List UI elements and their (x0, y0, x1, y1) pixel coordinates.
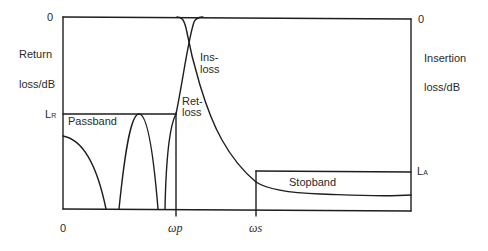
right-zero-tick: 0 (418, 13, 424, 25)
left-axis-label-line2: loss/dB (19, 78, 55, 90)
right-axis-label-line1: Insertion (424, 52, 466, 64)
left-zero-tick: 0 (47, 11, 53, 23)
omega-s-label: ωs (249, 222, 262, 234)
ins-loss-label-line1: Ins- (200, 51, 218, 63)
omega-p-label: ωp (168, 222, 182, 234)
la-label: LA (417, 165, 428, 179)
stopband-label: Stopband (289, 176, 336, 188)
la-level-line (256, 171, 411, 172)
bottom-axis (63, 209, 411, 211)
lr-label-sub: R (51, 112, 56, 119)
left-axis-label-line1: Return (19, 48, 52, 60)
top-zero-line (63, 17, 411, 19)
lr-label: LR (45, 108, 56, 122)
x-zero-tick: 0 (60, 222, 66, 234)
return-loss-ripple-2 (119, 114, 158, 209)
return-loss-ripple-3 (165, 114, 176, 209)
passband-label: Passband (68, 115, 117, 127)
la-label-sub: A (423, 169, 428, 176)
right-axis-label-line2: loss/dB (424, 81, 460, 93)
ins-loss-label-line2: loss (200, 63, 220, 75)
ret-loss-label-line2: loss (182, 106, 202, 118)
return-loss-ripple-1 (63, 136, 106, 209)
